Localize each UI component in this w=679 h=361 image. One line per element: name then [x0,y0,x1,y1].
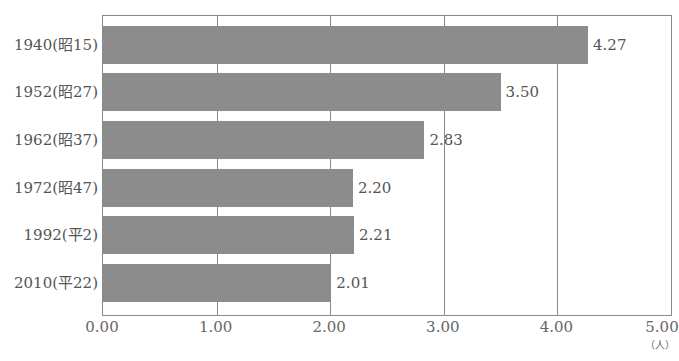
category-label: 1962(昭37) [0,121,98,159]
bar [103,26,588,64]
category-label: 1940(昭15) [0,26,98,64]
bar-value-label: 3.50 [506,73,539,111]
x-tick-label: 5.00 [645,318,678,336]
plot-area: 4.273.502.832.202.212.01 [102,15,672,316]
bar [103,121,424,159]
bar-value-label: 2.83 [429,121,462,159]
axis-unit-label: （人） [645,337,675,352]
x-tick-label: 2.00 [312,318,345,336]
bar-value-label: 2.20 [358,169,391,207]
category-label: 1992(平2) [0,216,98,254]
bar [103,169,353,207]
bar [103,264,331,302]
x-tick-label: 0.00 [85,318,118,336]
category-label: 2010(平22) [0,264,98,302]
bar-value-label: 2.21 [359,216,392,254]
x-tick-label: 4.00 [540,318,573,336]
bar-value-label: 4.27 [593,26,626,64]
bar-value-label: 2.01 [336,264,369,302]
category-label: 1972(昭47) [0,169,98,207]
bar [103,216,354,254]
category-label: 1952(昭27) [0,73,98,111]
bar [103,73,501,111]
x-tick-label: 3.00 [426,318,459,336]
x-tick-label: 1.00 [199,318,232,336]
